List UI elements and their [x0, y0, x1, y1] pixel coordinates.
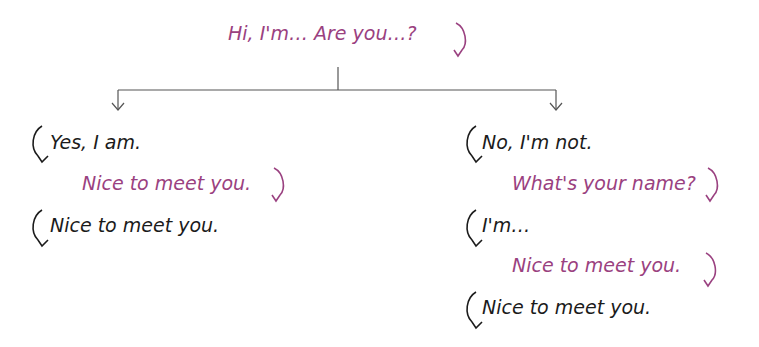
speech-tail-right-icon — [450, 20, 474, 62]
speech-tail-right-icon — [702, 165, 726, 207]
no-line-1: No, I'm not. — [482, 133, 592, 152]
no-line-4: Nice to meet you. — [512, 256, 681, 275]
yes-line-2: Nice to meet you. — [82, 174, 251, 193]
no-line-5: Nice to meet you. — [482, 298, 651, 317]
no-line-3: I'm… — [482, 216, 530, 235]
yes-line-3: Nice to meet you. — [50, 216, 219, 235]
speech-tail-right-icon — [268, 165, 292, 207]
yes-line-1: Yes, I am. — [50, 133, 141, 152]
root-line-text: Hi, I'm… Are you…? — [228, 22, 417, 44]
speech-tail-right-icon — [700, 250, 724, 292]
no-line-2: What's your name? — [512, 174, 696, 193]
root-line: Hi, I'm… Are you…? — [228, 24, 417, 43]
